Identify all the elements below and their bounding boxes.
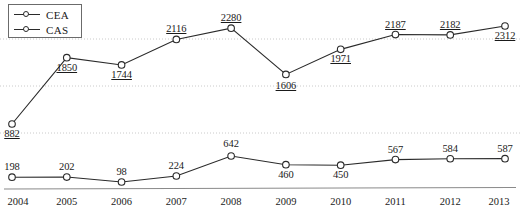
data-point-label: 2280 bbox=[221, 12, 242, 23]
data-point-label: 1971 bbox=[330, 53, 351, 64]
x-tick-label: 2004 bbox=[8, 196, 29, 207]
data-point-label: 224 bbox=[169, 160, 184, 171]
data-point-label: 460 bbox=[278, 169, 293, 180]
x-tick-label: 2007 bbox=[166, 196, 187, 207]
data-point-label: 2187 bbox=[385, 19, 406, 30]
x-tick-label: 2009 bbox=[275, 196, 296, 207]
data-point-label: 1606 bbox=[276, 80, 297, 91]
data-point-label: 450 bbox=[333, 169, 348, 180]
data-point-label: 584 bbox=[442, 143, 457, 154]
data-point-label: 882 bbox=[4, 128, 19, 139]
data-point-label: 198 bbox=[4, 161, 19, 172]
data-point-label: 1744 bbox=[111, 69, 132, 80]
legend-item-cas[interactable]: CAS bbox=[9, 22, 83, 37]
x-tick-label: 2013 bbox=[489, 196, 510, 207]
line-chart: CEA CAS 88218501744211622801606197121872… bbox=[0, 0, 520, 218]
x-tick-label: 2008 bbox=[221, 196, 242, 207]
data-point-label: 567 bbox=[388, 144, 403, 155]
data-point-label: 2182 bbox=[440, 19, 461, 30]
data-point-label: 587 bbox=[497, 143, 512, 154]
circle-open-icon bbox=[14, 9, 40, 21]
circle-open-icon bbox=[14, 24, 40, 36]
x-tick-label: 2005 bbox=[56, 196, 77, 207]
data-point-label: 2116 bbox=[166, 23, 186, 34]
legend-item-cea[interactable]: CEA bbox=[9, 7, 83, 22]
legend-label-cas: CAS bbox=[46, 24, 68, 36]
data-point-label: 2312 bbox=[495, 30, 516, 41]
x-tick-label: 2006 bbox=[111, 196, 132, 207]
data-point-label: 98 bbox=[116, 166, 126, 177]
data-point-label: 642 bbox=[223, 138, 238, 149]
x-tick-label: 2011 bbox=[385, 196, 406, 207]
chart-legend: CEA CAS bbox=[8, 4, 82, 38]
x-tick-label: 2010 bbox=[330, 196, 351, 207]
legend-label-cea: CEA bbox=[46, 9, 69, 21]
data-point-label: 202 bbox=[59, 161, 74, 172]
data-point-label: 1850 bbox=[56, 62, 77, 73]
x-tick-label: 2012 bbox=[440, 196, 461, 207]
